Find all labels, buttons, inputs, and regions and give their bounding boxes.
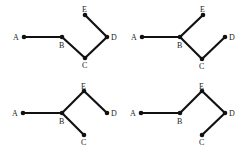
node-label-d: D	[229, 33, 235, 42]
node-label-e: E	[81, 82, 86, 91]
edge-b-c	[62, 113, 84, 135]
node-c	[82, 133, 87, 138]
node-c	[83, 56, 88, 61]
tree-diagrams: ABCDEABCDEABCDEABCDE	[0, 0, 248, 164]
node-label-e: E	[200, 5, 205, 14]
node-a	[139, 111, 144, 116]
panel-4: ABCDE	[130, 82, 235, 147]
edge-b-c	[62, 37, 85, 58]
node-label-c: C	[199, 62, 204, 71]
node-a	[22, 35, 27, 40]
edge-b-e	[180, 91, 202, 113]
node-d	[223, 111, 228, 116]
node-c	[200, 57, 205, 62]
node-d	[223, 35, 228, 40]
node-label-b: B	[177, 117, 182, 126]
node-c	[200, 133, 205, 138]
node-label-a: A	[130, 109, 136, 118]
node-b	[60, 35, 65, 40]
node-d	[105, 111, 110, 116]
node-label-c: C	[81, 138, 86, 147]
node-label-b: B	[59, 117, 64, 126]
node-label-a: A	[131, 33, 137, 42]
node-label-d: D	[229, 109, 235, 118]
node-label-b: B	[177, 41, 182, 50]
panel-3: ABCDE	[12, 82, 117, 147]
node-label-d: D	[111, 109, 117, 118]
node-label-a: A	[13, 33, 19, 42]
node-label-d: D	[111, 33, 117, 42]
node-label-e: E	[82, 5, 87, 14]
node-d	[105, 35, 110, 40]
edge-e-d	[202, 91, 225, 113]
panel-1: ABCDE	[13, 5, 117, 70]
edge-d-c	[202, 113, 225, 135]
edge-e-d	[84, 91, 107, 113]
edge-b-e	[180, 15, 203, 37]
node-a	[21, 111, 26, 116]
node-b	[178, 111, 183, 116]
panel-2: ABCDE	[131, 5, 235, 71]
node-label-c: C	[199, 138, 204, 147]
node-label-e: E	[199, 82, 204, 91]
edge-b-c	[180, 37, 202, 59]
node-label-a: A	[12, 109, 18, 118]
edge-c-d	[202, 37, 225, 59]
node-label-b: B	[59, 41, 64, 50]
edge-d-e	[85, 15, 107, 37]
edge-b-e	[62, 91, 84, 113]
node-label-c: C	[82, 61, 87, 70]
edge-c-d	[85, 37, 107, 58]
node-b	[178, 35, 183, 40]
node-a	[140, 35, 145, 40]
node-b	[60, 111, 65, 116]
